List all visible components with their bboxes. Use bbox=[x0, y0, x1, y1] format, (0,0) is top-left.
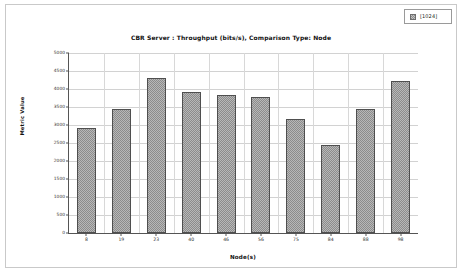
chart-title: CBR Server : Throughput (bits/s), Compar… bbox=[6, 34, 456, 41]
y-tick-label: 1500 bbox=[54, 177, 65, 181]
bar-slot: 8 bbox=[69, 53, 104, 233]
x-tick-label: 84 bbox=[328, 238, 334, 243]
plot-wrapper: 0500100015002000250030003500400045005000… bbox=[68, 53, 418, 234]
bar-slot: 75 bbox=[278, 53, 313, 233]
bar-slot: 19 bbox=[104, 53, 139, 233]
bar[interactable] bbox=[251, 97, 270, 233]
bar[interactable] bbox=[286, 119, 305, 233]
legend-entry-label: [1024] bbox=[420, 14, 437, 19]
bar[interactable] bbox=[356, 109, 375, 233]
y-tick-label: 1000 bbox=[54, 195, 65, 199]
x-tick-mark bbox=[86, 233, 87, 236]
y-tick-label: 500 bbox=[57, 213, 65, 217]
x-tick-label: 88 bbox=[363, 238, 369, 243]
bar[interactable] bbox=[182, 92, 201, 233]
y-tick-label: 3000 bbox=[54, 123, 65, 127]
x-tick-mark bbox=[400, 233, 401, 236]
bar[interactable] bbox=[321, 145, 340, 233]
bar-slot: 23 bbox=[139, 53, 174, 233]
y-tick-label: 2000 bbox=[54, 159, 65, 163]
bar-slot: 98 bbox=[383, 53, 418, 233]
bar-slot: 88 bbox=[348, 53, 383, 233]
bar[interactable] bbox=[112, 109, 131, 233]
bar[interactable] bbox=[391, 81, 410, 233]
x-tick-label: 19 bbox=[118, 238, 124, 243]
x-axis-title: Node(s) bbox=[68, 254, 418, 260]
y-tick-label: 4500 bbox=[54, 69, 65, 73]
y-tick-label: 0 bbox=[62, 231, 65, 235]
bar-slot: 40 bbox=[174, 53, 209, 233]
bar[interactable] bbox=[217, 95, 236, 233]
legend: [1024] bbox=[404, 9, 452, 24]
x-tick-label: 46 bbox=[223, 238, 229, 243]
bars-layer: 8192340465675848898 bbox=[69, 53, 418, 233]
x-tick-label: 23 bbox=[153, 238, 159, 243]
pattern-swatch-icon bbox=[410, 14, 416, 20]
x-tick-mark bbox=[156, 233, 157, 236]
x-tick-label: 98 bbox=[398, 238, 404, 243]
x-tick-label: 56 bbox=[258, 238, 264, 243]
x-tick-label: 8 bbox=[85, 238, 88, 243]
x-tick-mark bbox=[365, 233, 366, 236]
y-axis-title: Metric Value bbox=[19, 86, 25, 146]
x-tick-label: 40 bbox=[188, 238, 194, 243]
y-tick-label: 5000 bbox=[54, 51, 65, 55]
bar[interactable] bbox=[147, 78, 166, 233]
bar-slot: 46 bbox=[209, 53, 244, 233]
bar-slot: 84 bbox=[313, 53, 348, 233]
chart-window-frame: [1024] CBR Server : Throughput (bits/s),… bbox=[5, 4, 457, 268]
y-tick-label: 4000 bbox=[54, 87, 65, 91]
x-tick-mark bbox=[191, 233, 192, 236]
x-tick-label: 75 bbox=[293, 238, 299, 243]
bar[interactable] bbox=[77, 128, 96, 233]
x-tick-mark bbox=[260, 233, 261, 236]
x-tick-mark bbox=[121, 233, 122, 236]
x-tick-mark bbox=[330, 233, 331, 236]
y-tick-label: 3500 bbox=[54, 105, 65, 109]
x-tick-mark bbox=[295, 233, 296, 236]
x-tick-mark bbox=[226, 233, 227, 236]
y-tick-label: 2500 bbox=[54, 141, 65, 145]
plot-area: 0500100015002000250030003500400045005000… bbox=[68, 53, 418, 234]
bar-slot: 56 bbox=[244, 53, 279, 233]
